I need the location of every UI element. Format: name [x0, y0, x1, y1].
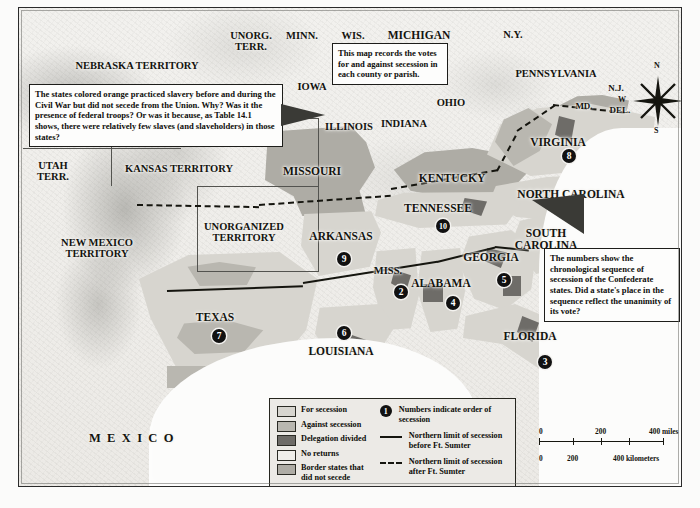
legend-dashed-line-icon [380, 462, 402, 464]
legend-symbol-row: Northern limit of secession after Ft. Su… [380, 457, 508, 476]
map-canvas[interactable]: NEBRASKA TERRITORYKANSAS TERRITORYUNORGA… [18, 7, 682, 487]
secession-order-badge: 8 [562, 149, 576, 163]
map-legend[interactable]: For secessionAgainst secessionDelegation… [269, 398, 516, 487]
legend-solid-line-icon [380, 436, 402, 438]
territory-label: UTAHTERR. [37, 160, 69, 183]
territory-label: UNORG.TERR. [230, 30, 272, 53]
secession-order-badge: 2 [394, 285, 408, 299]
scale-tick-mid-mi [601, 438, 602, 445]
state-label-n-j: N.J. [608, 84, 624, 94]
compass-star-icon [627, 70, 682, 132]
note-secession-sequence-pointer [532, 194, 584, 234]
compass-label-west: W [618, 95, 626, 104]
territory-label: NEBRASKA TERRITORY [75, 60, 198, 71]
legend-symbol-label: Numbers indicate order of secession [399, 405, 508, 424]
state-label-md: MD. [575, 102, 592, 112]
legend-symbol-label: Northern limit of secession before Ft. S… [409, 431, 508, 450]
state-label-illinois: ILLINOIS [325, 121, 373, 132]
legend-symbol-column: 1Numbers indicate order of secessionNort… [380, 405, 508, 483]
secession-order-badge: 6 [337, 326, 351, 340]
state-label-alabama: ALABAMA [411, 277, 470, 289]
note-orange-states: The states colored orange practiced slav… [29, 84, 283, 147]
legend-symbol-row: 1Numbers indicate order of secession [380, 405, 508, 424]
state-label-wis: WIS. [341, 30, 364, 41]
note-orange-states-pointer [281, 104, 325, 126]
legend-order-badge-icon: 1 [380, 405, 392, 417]
compass-label-south: S [654, 126, 658, 135]
map-page: NEBRASKA TERRITORYKANSAS TERRITORYUNORGA… [0, 0, 700, 508]
legend-swatch-row: No returns [277, 449, 372, 461]
secession-order-badge: 3 [538, 355, 552, 369]
state-label-michigan: MICHIGAN [388, 29, 451, 41]
state-label-iowa: IOWA [297, 81, 326, 92]
note-secession-sequence: The numbers show the chronological seque… [544, 248, 680, 322]
secession-order-badge: 4 [446, 296, 460, 310]
territory-label: UNORGANIZEDTERRITORY [204, 221, 284, 244]
scale-bar: 0 200 400 miles 0 200 400 kilometers [539, 428, 679, 464]
legend-swatch [277, 450, 296, 461]
state-label-tennessee: TENNESSEE [404, 202, 472, 214]
scale-bar-line [539, 441, 679, 453]
scale-label-km-0: 0 [539, 454, 543, 463]
state-label-louisiana: LOUISIANA [308, 345, 373, 357]
state-label-n-y: N.Y. [503, 29, 522, 40]
legend-swatch-label: No returns [301, 449, 339, 459]
legend-swatch-row: Border states that did not secede [277, 463, 372, 482]
legend-swatch-label: Delegation divided [301, 434, 366, 444]
state-label-kentucky: KENTUCKY [419, 172, 485, 184]
legend-swatch-column: For secessionAgainst secessionDelegation… [277, 405, 372, 483]
state-label-minn: MINN. [286, 30, 318, 41]
country-label-mexico: M E X I C O [89, 432, 175, 446]
scale-tick-0 [539, 438, 540, 445]
scale-label-miles-0: 0 [539, 427, 543, 436]
secession-order-badge: 10 [436, 219, 450, 233]
scale-tick-km-mid [573, 438, 574, 445]
legend-swatch [277, 421, 296, 432]
legend-swatch-row: Against secession [277, 420, 372, 432]
territory-label: NEW MEXICOTERRITORY [61, 237, 133, 260]
note-county-votes: This map records the votes for and again… [332, 43, 448, 85]
legend-symbol-label: Northern limit of secession after Ft. Su… [409, 457, 508, 476]
state-label-virginia: VIRGINIA [530, 136, 586, 148]
secession-order-badge: 9 [337, 252, 351, 266]
legend-swatch-label: Against secession [301, 420, 361, 430]
scale-tick-mid-km [629, 438, 630, 445]
scale-tick-end [663, 438, 664, 445]
legend-symbol-row: Northern limit of secession before Ft. S… [380, 431, 508, 450]
state-label-arkansas: ARKANSAS [309, 230, 372, 242]
border-utah-new-mexico [23, 148, 181, 149]
legend-swatch-row: Delegation divided [277, 434, 372, 446]
legend-swatch-label: Border states that did not secede [301, 463, 372, 482]
legend-swatch [277, 406, 296, 417]
legend-swatch [277, 464, 296, 475]
scale-label-miles-200: 200 [595, 427, 606, 436]
territory-label: KANSAS TERRITORY [125, 163, 233, 174]
state-label-florida: FLORIDA [503, 330, 556, 342]
compass-label-north: N [654, 61, 660, 70]
state-label-pennsylvania: PENNSYLVANIA [515, 68, 596, 79]
compass-rose: N E S W [627, 70, 682, 132]
state-label-georgia: GEORGIA [463, 251, 519, 263]
legend-swatch-row: For secession [277, 405, 372, 417]
scale-bar-kilometers: 0 200 400 kilometers [539, 454, 679, 464]
state-label-missouri: MISSOURI [283, 165, 341, 177]
state-label-indiana: INDIANA [381, 118, 427, 129]
state-label-texas: TEXAS [196, 311, 234, 323]
scale-label-km-400: 400 kilometers [613, 454, 659, 463]
state-label-miss: MISS. [374, 265, 402, 276]
state-label-ohio: OHIO [437, 97, 466, 108]
legend-swatch-label: For secession [301, 405, 347, 415]
secession-order-badge: 7 [212, 329, 226, 343]
legend-swatch [277, 435, 296, 446]
scale-bar-miles: 0 200 400 miles [539, 428, 679, 438]
secession-order-badge: 5 [497, 273, 511, 287]
scale-label-km-200: 200 [567, 454, 578, 463]
scale-label-miles-400: 400 miles [649, 427, 678, 436]
